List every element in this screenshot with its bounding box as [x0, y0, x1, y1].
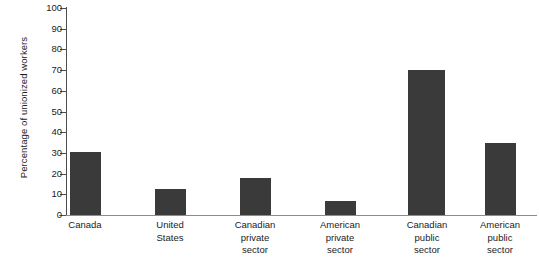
x-axis-label-line: sector — [460, 244, 539, 257]
x-axis-label-line: Canadian — [387, 219, 467, 232]
x-axis-label-line: sector — [300, 244, 380, 257]
x-axis-label-line: Canadian — [215, 219, 295, 232]
y-tick-label: 30 — [32, 146, 62, 160]
x-axis-label: UnitedStates — [130, 219, 210, 244]
bar — [325, 201, 356, 215]
y-tick-label: 100 — [32, 1, 62, 15]
y-axis-title: Percentage of unionized workers — [16, 0, 32, 215]
y-tick-label: 80 — [32, 42, 62, 56]
x-axis-line — [59, 215, 537, 216]
bar — [155, 189, 186, 215]
x-axis-label-line: private — [300, 232, 380, 245]
y-tick-label: 70 — [32, 63, 62, 77]
x-axis-label: Americanprivatesector — [300, 219, 380, 257]
bar — [408, 70, 445, 215]
y-tick-label: 90 — [32, 22, 62, 36]
plot-area: 1009080706050403020100 — [66, 8, 532, 215]
y-tick-label: 40 — [32, 125, 62, 139]
x-axis-label: Canadianprivatesector — [215, 219, 295, 257]
y-tick-label: 60 — [32, 84, 62, 98]
x-axis-label-line: sector — [215, 244, 295, 257]
x-axis-label-line: United — [130, 219, 210, 232]
bar — [70, 152, 101, 215]
x-axis-label-line: public — [387, 232, 467, 245]
bar-chart: Percentage of unionized workers 10090807… — [0, 0, 539, 266]
y-tick-label: 10 — [32, 187, 62, 201]
x-axis-label: Canada — [45, 219, 125, 232]
x-axis-label-line: States — [130, 232, 210, 245]
y-tick-label: 20 — [32, 167, 62, 181]
x-axis-label-line: American — [300, 219, 380, 232]
bar — [485, 143, 516, 215]
x-axis-label: Canadianpublicsector — [387, 219, 467, 257]
y-tick-label: 50 — [32, 105, 62, 119]
x-axis-label-line: private — [215, 232, 295, 245]
bar — [240, 178, 271, 215]
x-axis-label-line: American — [460, 219, 539, 232]
x-axis-label-line: public — [460, 232, 539, 245]
x-axis-label-line: sector — [387, 244, 467, 257]
x-axis-label: Americanpublicsector — [460, 219, 539, 257]
x-axis-label-line: Canada — [45, 219, 125, 232]
